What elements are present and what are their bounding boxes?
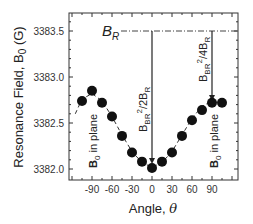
data-point	[77, 96, 87, 106]
data-point	[117, 131, 127, 141]
data-point	[177, 131, 187, 141]
data-point	[197, 105, 207, 115]
x-tick-label: 90	[206, 184, 218, 195]
data-point	[167, 147, 177, 157]
data-point	[87, 86, 97, 96]
x-tick-label: -90	[85, 184, 100, 195]
x-tick-label: -60	[105, 184, 120, 195]
annotation-bbr2-4br: BBR2/4BR	[195, 37, 212, 82]
x-tick-labels: -90-60-300306090	[85, 184, 218, 195]
resonance-field-chart: 3382.03382.53383.03383.5 -90-60-30030609…	[0, 0, 253, 224]
br-label: BR	[102, 22, 119, 42]
data-point	[217, 98, 227, 108]
y-tick-label: 3383.5	[33, 26, 64, 37]
data-point	[97, 98, 107, 108]
data-point	[127, 147, 137, 157]
data-point	[147, 163, 157, 173]
x-tick-label: 0	[149, 184, 155, 195]
data-point	[157, 157, 167, 167]
y-tick-label: 3382.5	[33, 118, 64, 129]
x-tick-label: 30	[166, 184, 178, 195]
annotation-b0-in-plane-right: B0 in plane	[208, 114, 223, 168]
y-axis-title: Resonance Field, B0 (G)	[11, 26, 28, 167]
y-tick-label: 3382.0	[33, 164, 64, 175]
x-tick-label: -30	[125, 184, 140, 195]
y-tick-label: 3383.0	[33, 72, 64, 83]
x-axis-title: Angle, θ	[129, 201, 177, 216]
annotation-bbr2-2br: BBR2/2BR	[135, 87, 152, 132]
data-point	[137, 157, 147, 167]
y-tick-labels: 3382.03382.53383.03383.5	[33, 26, 64, 175]
data-point	[207, 98, 217, 108]
annotation-b0-in-plane-left: B0 in plane	[87, 114, 102, 168]
x-tick-label: 60	[186, 184, 198, 195]
data-point	[107, 112, 117, 122]
data-point	[187, 115, 197, 125]
